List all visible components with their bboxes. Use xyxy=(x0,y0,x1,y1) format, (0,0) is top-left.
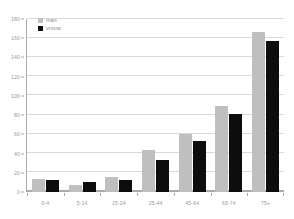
bar-vrouw-5-14 xyxy=(83,182,96,192)
y-axis-tick-mark xyxy=(21,134,24,135)
x-axis-tick-mark xyxy=(211,193,212,196)
x-axis-tick-mark xyxy=(27,193,28,196)
y-axis-tick-mark xyxy=(21,57,24,58)
y-axis-tick-mark xyxy=(21,172,24,173)
x-axis-tick-mark xyxy=(247,193,248,196)
x-axis-label: 0-4 xyxy=(41,200,49,213)
legend-label-man: man xyxy=(46,17,57,23)
y-axis-tick-mark xyxy=(21,38,24,39)
bar-group xyxy=(137,19,174,192)
bar-vrouw-0-4 xyxy=(46,180,59,192)
y-axis-tick-mark xyxy=(21,19,24,20)
x-axis-tick-mark xyxy=(64,193,65,196)
x-axis: 0-45-1415-2425-4445-6465-7475+ xyxy=(27,193,284,213)
x-axis-label: 45-64 xyxy=(185,200,199,213)
male-swatch-icon xyxy=(38,18,43,23)
bar-man-25-44 xyxy=(142,150,155,192)
bar-man-75+ xyxy=(252,32,265,193)
y-axis-tick-mark xyxy=(21,192,24,193)
y-axis-label: 140 xyxy=(11,54,20,60)
y-axis-tick-mark xyxy=(21,115,24,116)
x-axis-label: 15-24 xyxy=(112,200,126,213)
y-axis-label: 80 xyxy=(14,112,20,118)
legend-item-man: man xyxy=(38,17,61,23)
y-axis: 020406080100120140160180 xyxy=(0,19,24,192)
x-axis-label: 75+ xyxy=(261,200,270,213)
x-axis-group: 75+ xyxy=(247,193,284,213)
bar-vrouw-45-64 xyxy=(193,141,206,192)
bar-man-0-4 xyxy=(32,179,45,192)
bar-man-65-74 xyxy=(215,106,228,192)
x-axis-group: 25-44 xyxy=(137,193,174,213)
bar-group xyxy=(247,19,284,192)
x-axis-group: 5-14 xyxy=(64,193,101,213)
legend-label-vrouw: vrouw xyxy=(46,25,61,31)
x-axis-label: 25-44 xyxy=(149,200,163,213)
x-axis-label: 65-74 xyxy=(222,200,236,213)
bar-group xyxy=(27,19,64,192)
female-swatch-icon xyxy=(38,26,43,31)
x-axis-label: 5-14 xyxy=(77,200,88,213)
x-axis-end-tick xyxy=(283,193,284,196)
bar-vrouw-15-24 xyxy=(119,180,132,192)
x-axis-group: 15-24 xyxy=(100,193,137,213)
legend-item-vrouw: vrouw xyxy=(38,25,61,31)
y-axis-label: 160 xyxy=(11,35,20,41)
y-axis-label: 180 xyxy=(11,16,20,22)
y-axis-label: 40 xyxy=(14,151,20,157)
bar-man-5-14 xyxy=(69,185,82,192)
bar-group xyxy=(100,19,137,192)
bar-man-45-64 xyxy=(179,134,192,192)
y-axis-label: 20 xyxy=(14,170,20,176)
x-axis-group: 0-4 xyxy=(27,193,64,213)
y-axis-tick-mark xyxy=(21,76,24,77)
x-axis-group: 45-64 xyxy=(174,193,211,213)
bar-vrouw-75+ xyxy=(266,41,279,192)
y-axis-label: 60 xyxy=(14,131,20,137)
x-axis-tick-mark xyxy=(100,193,101,196)
bar-vrouw-65-74 xyxy=(229,114,242,192)
y-axis-tick-mark xyxy=(21,95,24,96)
bar-group xyxy=(64,19,101,192)
x-axis-group: 65-74 xyxy=(211,193,248,213)
bars-layer xyxy=(27,19,284,192)
y-axis-label: 120 xyxy=(11,74,20,80)
bar-group xyxy=(174,19,211,192)
y-axis-label: 0 xyxy=(17,189,20,195)
y-axis-tick-mark xyxy=(21,153,24,154)
legend: man vrouw xyxy=(38,17,61,31)
bar-vrouw-25-44 xyxy=(156,160,169,192)
bar-group xyxy=(211,19,248,192)
y-axis-label: 100 xyxy=(11,93,20,99)
bar-man-15-24 xyxy=(105,177,118,192)
x-axis-tick-mark xyxy=(137,193,138,196)
x-axis-tick-mark xyxy=(174,193,175,196)
bar-chart: 020406080100120140160180 0-45-1415-2425-… xyxy=(0,0,294,219)
